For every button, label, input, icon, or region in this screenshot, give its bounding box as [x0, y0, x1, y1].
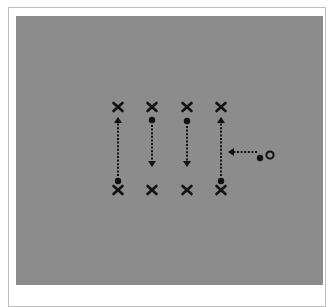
cone-x-icon: [148, 103, 157, 111]
cone-x-icon: [114, 103, 123, 111]
player-dot-icon: [115, 178, 121, 184]
cone-x-icon: [217, 186, 226, 194]
cones-layer: [114, 103, 226, 194]
players-layer: [115, 117, 263, 184]
cone-x-icon: [183, 186, 192, 194]
cone-x-icon: [217, 103, 226, 111]
cone-x-icon: [183, 103, 192, 111]
player-dot-icon: [184, 118, 190, 124]
ball-layer: [266, 151, 273, 158]
runs-layer: [118, 118, 257, 176]
player-dot-icon: [257, 155, 263, 161]
player-dot-icon: [218, 178, 224, 184]
cone-x-icon: [148, 186, 157, 194]
ball-icon: [266, 151, 273, 158]
cone-x-icon: [114, 186, 123, 194]
player-dot-icon: [149, 117, 155, 123]
